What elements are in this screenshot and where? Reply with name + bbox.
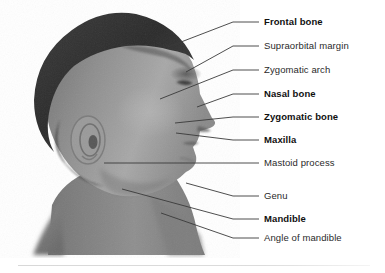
label-nasal-bone: Nasal bone: [264, 89, 316, 99]
label-genu: Genu: [264, 191, 288, 201]
label-frontal-bone: Frontal bone: [264, 17, 323, 27]
label-maxilla: Maxilla: [264, 135, 296, 145]
label-list: Frontal boneSupraorbital marginZygomatic…: [0, 0, 385, 273]
label-angle-of-mandible: Angle of mandible: [264, 233, 342, 243]
label-zygomatic-bone: Zygomatic bone: [264, 112, 338, 122]
bottom-divider: [18, 265, 370, 266]
label-zygomatic-arch: Zygomatic arch: [264, 65, 330, 75]
anatomy-figure: Frontal boneSupraorbital marginZygomatic…: [0, 0, 385, 273]
label-supraorbital-margin: Supraorbital margin: [264, 41, 349, 51]
label-mastoid-process: Mastoid process: [264, 158, 335, 168]
label-mandible: Mandible: [264, 214, 306, 224]
